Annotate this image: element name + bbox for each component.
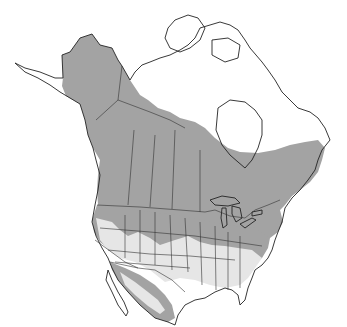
range-map xyxy=(0,0,347,327)
arctic-islands xyxy=(165,15,240,62)
north-america-map xyxy=(0,0,347,327)
